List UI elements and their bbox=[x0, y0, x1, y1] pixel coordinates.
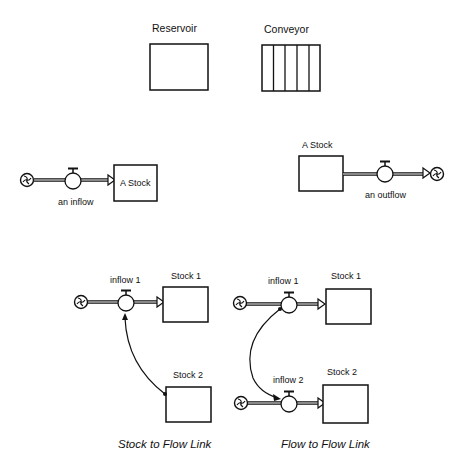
cloud-sink-icon bbox=[431, 168, 444, 181]
stock2-box[interactable] bbox=[166, 387, 211, 422]
stock2-label: Stock 2 bbox=[327, 367, 357, 377]
stock1-label: Stock 1 bbox=[171, 271, 201, 281]
stock-label: A Stock bbox=[302, 140, 333, 150]
valve1-icon[interactable] bbox=[281, 293, 297, 314]
valve2-icon[interactable] bbox=[281, 392, 297, 413]
valve-icon[interactable] bbox=[65, 169, 81, 190]
cloud-source-icon bbox=[234, 297, 247, 310]
stock2-box[interactable] bbox=[323, 385, 368, 423]
caption: Stock to Flow Link bbox=[118, 438, 213, 450]
reservoir-legend: Reservoir bbox=[150, 22, 208, 90]
stock1-label: Stock 1 bbox=[331, 271, 361, 281]
reservoir-label: Reservoir bbox=[152, 22, 197, 34]
conveyor-label: Conveyor bbox=[264, 23, 309, 35]
stock1-box[interactable] bbox=[163, 287, 208, 322]
valve-icon[interactable] bbox=[118, 291, 134, 312]
inflow-example: an inflow A Stock bbox=[21, 165, 158, 207]
stock-box[interactable] bbox=[299, 156, 343, 191]
flow1-arrow-icon bbox=[318, 299, 325, 309]
connector-link[interactable] bbox=[125, 318, 165, 394]
stock2-label: Stock 2 bbox=[173, 370, 203, 380]
connector-arrow-icon bbox=[122, 313, 128, 320]
inflow-label: an inflow bbox=[58, 197, 94, 207]
reservoir-icon bbox=[150, 44, 208, 90]
flow2-label: inflow 2 bbox=[273, 375, 304, 385]
flow-label: inflow 1 bbox=[110, 275, 141, 285]
caption: Flow to Flow Link bbox=[281, 438, 371, 450]
cloud-source-icon bbox=[235, 397, 248, 410]
connector-arrow-icon bbox=[273, 394, 281, 401]
cloud-source-icon bbox=[75, 296, 88, 309]
stock-to-flow-example: inflow 1 Stock 1 Stock 2 Stock to Flow L… bbox=[75, 271, 213, 450]
diagram-canvas: Reservoir Conveyor an inflow A Stock A S… bbox=[0, 0, 450, 454]
stock-label: A Stock bbox=[120, 178, 151, 188]
valve-icon[interactable] bbox=[377, 162, 393, 183]
stock1-box[interactable] bbox=[326, 289, 371, 324]
flow1-label: inflow 1 bbox=[268, 276, 299, 286]
conveyor-legend: Conveyor bbox=[262, 23, 320, 91]
conveyor-icon bbox=[262, 45, 320, 91]
flow-to-flow-example: inflow 1 Stock 1 inflow 2 Stock 2 Flow t… bbox=[234, 271, 372, 450]
flow-arrow-icon bbox=[423, 168, 430, 178]
outflow-example: A Stock an outflow bbox=[299, 140, 444, 200]
outflow-label: an outflow bbox=[365, 190, 407, 200]
cloud-source-icon bbox=[21, 174, 34, 187]
